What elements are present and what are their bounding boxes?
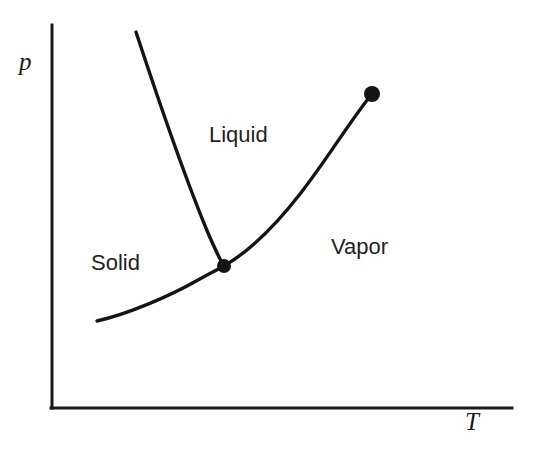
x-axis-label: T — [465, 409, 479, 434]
region-label-liquid: Liquid — [209, 124, 268, 146]
y-axis-label: p — [19, 49, 32, 74]
fusion-curve — [136, 32, 224, 266]
triple-point-marker — [217, 259, 231, 273]
phase-diagram-canvas — [0, 0, 535, 454]
region-label-solid: Solid — [91, 252, 140, 274]
critical-point-marker — [364, 86, 380, 102]
coexistence-curves — [97, 32, 372, 321]
region-label-vapor: Vapor — [331, 236, 388, 258]
phase-diagram-figure: p T Liquid Solid Vapor — [0, 0, 535, 454]
